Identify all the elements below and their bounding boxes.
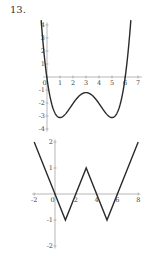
y-tick-label: 1	[49, 164, 53, 172]
x-tick-label: 8	[136, 196, 140, 204]
y-tick-label: 2	[49, 138, 53, 146]
graph2-axes	[32, 139, 140, 248]
x-tick-label: 0	[50, 196, 54, 204]
y-tick-label: -2	[47, 242, 53, 250]
x-tick-label: -2	[31, 196, 37, 204]
piecewise-linear-graph: -20246821-1-2	[0, 0, 149, 264]
y-tick-label: -1	[47, 216, 53, 224]
graph2-curve	[34, 142, 138, 220]
